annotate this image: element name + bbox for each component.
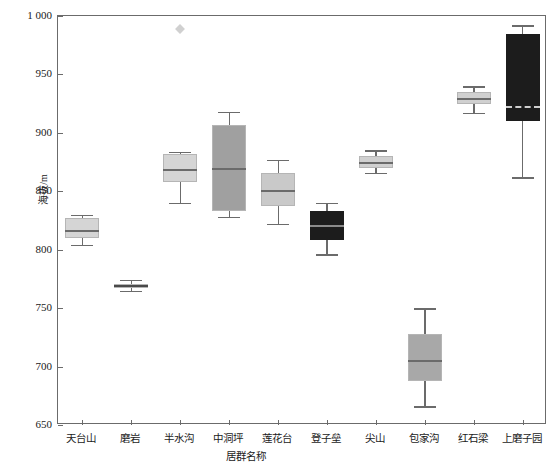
chart-canvas: 海拔/m 6507007508008509009501 000 天台山磨岩半水沟… — [0, 0, 554, 468]
x-tick-label-9: 上磨子园 — [502, 430, 542, 445]
x-axis-title: 居群名称 — [226, 448, 266, 463]
whisker-cap-lower — [512, 177, 534, 178]
x-tick-label-0: 天台山 — [66, 430, 96, 445]
x-tick-label-1: 磨岩 — [120, 430, 140, 445]
y-tick-label: 700 — [0, 360, 52, 372]
x-tick-label-6: 尖山 — [365, 430, 385, 445]
median-line — [506, 106, 540, 110]
x-tick-label-3: 中洞坪 — [213, 430, 243, 445]
y-tick-label: 950 — [0, 67, 52, 79]
x-tick-label-8: 红石梁 — [458, 430, 488, 445]
x-tick-label-4: 莲花台 — [262, 430, 292, 445]
y-tick-mark — [58, 425, 63, 426]
y-tick-label: 850 — [0, 184, 52, 196]
y-tick-label: 750 — [0, 301, 52, 313]
y-tick-label: 650 — [0, 418, 52, 430]
y-tick-label: 800 — [0, 243, 52, 255]
whisker-lower — [522, 121, 523, 177]
y-tick-label: 1 000 — [0, 9, 52, 21]
x-tick-label-2: 半水沟 — [164, 430, 194, 445]
y-tick-label: 900 — [0, 126, 52, 138]
plot-area — [57, 15, 546, 424]
box-plot-9[interactable] — [58, 16, 547, 425]
whisker-cap-upper — [512, 25, 534, 26]
x-tick-label-5: 登子垒 — [311, 430, 341, 445]
x-tick-label-7: 包家沟 — [409, 430, 439, 445]
